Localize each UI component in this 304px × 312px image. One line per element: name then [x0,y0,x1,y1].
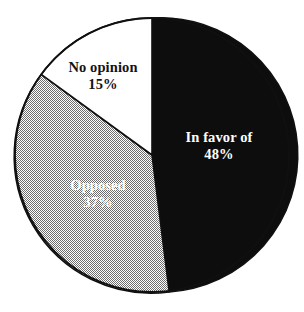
pie-chart-graphic [0,0,304,312]
pie-slice-in-favor-of[interactable] [152,18,298,292]
pie-chart-figure: In favor of 48% Opposed 37% No opinion 1… [0,0,304,312]
